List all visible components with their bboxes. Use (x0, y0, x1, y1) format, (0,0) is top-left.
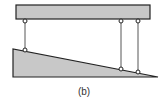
hinge-icon (23, 19, 27, 23)
link-1 (23, 19, 27, 52)
hinge-icon (136, 70, 140, 74)
hinge-icon (119, 67, 123, 71)
figure-caption: (b) (0, 86, 168, 97)
beam (16, 5, 150, 19)
hinge-icon (136, 19, 140, 23)
link-3 (136, 19, 140, 74)
hinge-icon (119, 19, 123, 23)
hinge-icon (23, 48, 27, 52)
link-2 (119, 19, 123, 71)
